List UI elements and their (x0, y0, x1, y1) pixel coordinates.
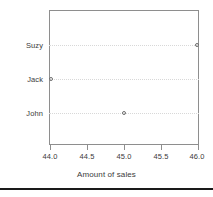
x-tick-label-44-0: 44.0 (43, 152, 58, 161)
x-axis-title: Amount of sales (0, 170, 213, 180)
x-tick-label-46-0: 46.0 (190, 152, 205, 161)
x-tick-mark-45-5 (161, 145, 162, 150)
x-tick-mark-46-0 (198, 145, 199, 150)
x-tick-label-45-5: 45.5 (154, 152, 169, 161)
gridline-suzy (49, 45, 199, 47)
x-tick-label-45-0: 45.0 (117, 152, 132, 161)
x-tick-mark-44-0 (50, 145, 51, 150)
x-tick-mark-44-5 (87, 145, 88, 150)
x-tick-label-44-5: 44.5 (80, 152, 95, 161)
gridline-jack (49, 79, 199, 81)
y-axis-label-jack: Jack (27, 75, 43, 84)
bottom-divider (0, 188, 213, 190)
x-tick-mark-45-0 (124, 145, 125, 150)
y-axis-label-john: John (26, 109, 43, 118)
y-axis-label-suzy: Suzy (26, 41, 43, 50)
plot-area (49, 10, 199, 145)
dot-chart: Suzy Jack John 44.0 44.5 45.0 45.5 46.0 … (0, 0, 213, 197)
